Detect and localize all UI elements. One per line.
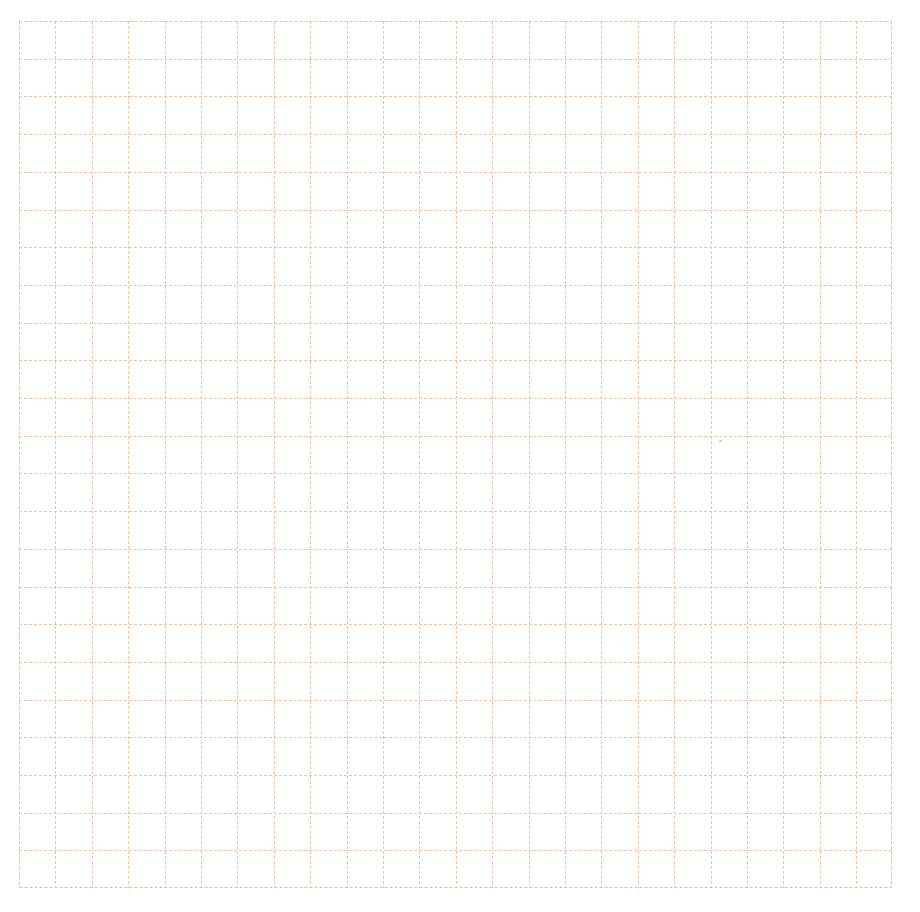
- grid-sheet: [19, 21, 892, 888]
- cropped-header-text: · – – – – – – – – – – – – – – – – – – – …: [225, 0, 705, 4]
- faint-speck: [719, 440, 722, 442]
- grid-lines: [19, 21, 892, 888]
